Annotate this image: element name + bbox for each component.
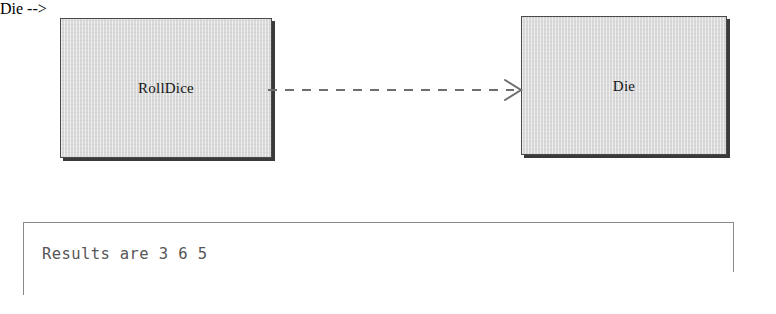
console-output-text: Results are 3 6 5 <box>42 244 207 264</box>
console-border-right <box>733 222 734 272</box>
console-output-panel[interactable]: Results are 3 6 5 <box>23 222 734 295</box>
console-border-left <box>23 222 24 295</box>
uml-class-label-rolldice: RollDice <box>61 79 271 97</box>
diagram-canvas: RollDice Die Die --> Results are 3 6 5 <box>0 0 776 314</box>
uml-class-box-die[interactable]: Die <box>521 16 727 155</box>
console-border-top <box>23 222 734 223</box>
dependency-arrow-icon <box>262 70 530 110</box>
uml-class-box-rolldice[interactable]: RollDice <box>60 18 272 158</box>
uml-class-label-die: Die <box>522 77 726 95</box>
